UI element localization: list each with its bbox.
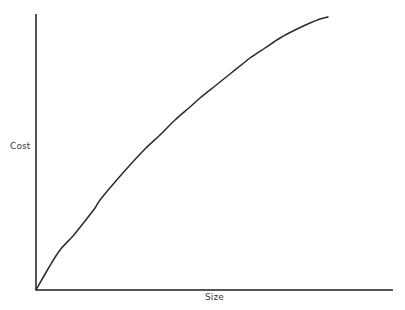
data-series-group: [36, 17, 328, 290]
y-axis-label: Cost: [10, 141, 30, 152]
chart-figure: Cost Size: [0, 0, 405, 310]
axes-group: [36, 14, 393, 290]
plot-canvas: [0, 0, 405, 310]
cost-curve-line: [36, 17, 328, 290]
x-axis-label: Size: [205, 292, 224, 303]
